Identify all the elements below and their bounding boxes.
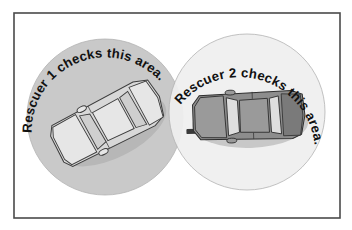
car-right-mirror-top bbox=[225, 90, 235, 95]
zone-right: Rescuer 2 checks this area. bbox=[169, 34, 327, 190]
car-right-roof bbox=[239, 98, 269, 133]
car-right-hood bbox=[194, 96, 226, 139]
car-right-mirror-bottom bbox=[227, 138, 237, 143]
figure-root: Rescuer 1 checks this area. bbox=[0, 0, 352, 230]
figure-canvas: Rescuer 1 checks this area. bbox=[0, 0, 352, 230]
car-right-windshield bbox=[226, 97, 239, 135]
